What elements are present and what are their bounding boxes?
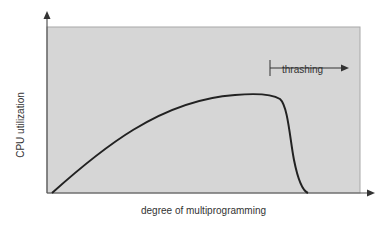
- plot-area: [47, 27, 360, 193]
- x-axis-label: degree of multiprogramming: [47, 205, 360, 216]
- y-axis-arrow-icon: [44, 11, 51, 19]
- x-axis-arrow-icon: [367, 190, 375, 197]
- chart: [0, 0, 392, 229]
- thrashing-label: thrashing: [282, 64, 323, 75]
- y-axis-label-wrap: CPU utilization: [8, 60, 32, 190]
- y-axis-label: CPU utilization: [15, 92, 26, 158]
